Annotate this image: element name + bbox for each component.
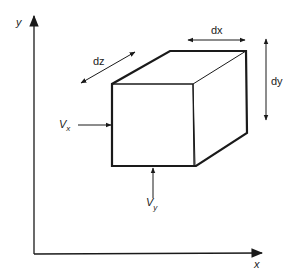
cube bbox=[112, 51, 247, 166]
vy-label: Vy bbox=[146, 196, 158, 212]
y-axis-label: y bbox=[15, 16, 23, 28]
dy-label: dy bbox=[271, 75, 283, 87]
x-axis-label: x bbox=[253, 258, 260, 270]
vx-label: Vx bbox=[59, 118, 71, 133]
dz-arrow bbox=[81, 52, 135, 83]
dx-label: dx bbox=[211, 24, 223, 36]
dz-label: dz bbox=[93, 55, 105, 67]
element-diagram: y x dz dx dy Vx Vy bbox=[0, 0, 297, 278]
cube-edge-top-diagonal bbox=[193, 51, 246, 84]
x-axis bbox=[34, 253, 262, 254]
cube-front-face bbox=[112, 84, 194, 166]
